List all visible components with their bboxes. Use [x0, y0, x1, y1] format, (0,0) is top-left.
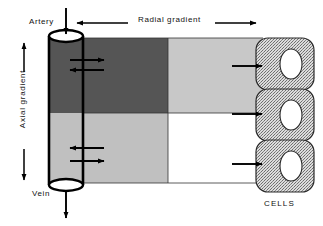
vessel-bottom-opening — [49, 179, 83, 191]
grid-cell-1-1 — [168, 113, 263, 183]
blood-vessel-cylinder — [49, 30, 83, 191]
tissue-cells-group — [256, 38, 314, 192]
vein-label: Vein — [32, 190, 50, 198]
nucleus-middle — [280, 100, 302, 130]
tissue-cell-bottom — [256, 140, 314, 192]
cells-label: CELLS — [264, 200, 295, 208]
artery-label: Artery — [29, 18, 54, 26]
tissue-cell-top — [256, 38, 314, 90]
tissue-cell-middle — [256, 89, 314, 141]
vessel-upper-segment — [49, 36, 83, 113]
diagram-canvas: Artery Vein Radial gradient Axial gradie… — [0, 0, 323, 226]
nucleus-top — [280, 49, 302, 79]
nucleus-bottom — [280, 151, 302, 181]
grid-cell-0-1 — [168, 38, 263, 113]
radial-gradient-label: Radial gradient — [138, 16, 201, 24]
axial-gradient-label: Axial gradient — [19, 70, 27, 128]
vessel-lower-segment — [49, 113, 83, 185]
